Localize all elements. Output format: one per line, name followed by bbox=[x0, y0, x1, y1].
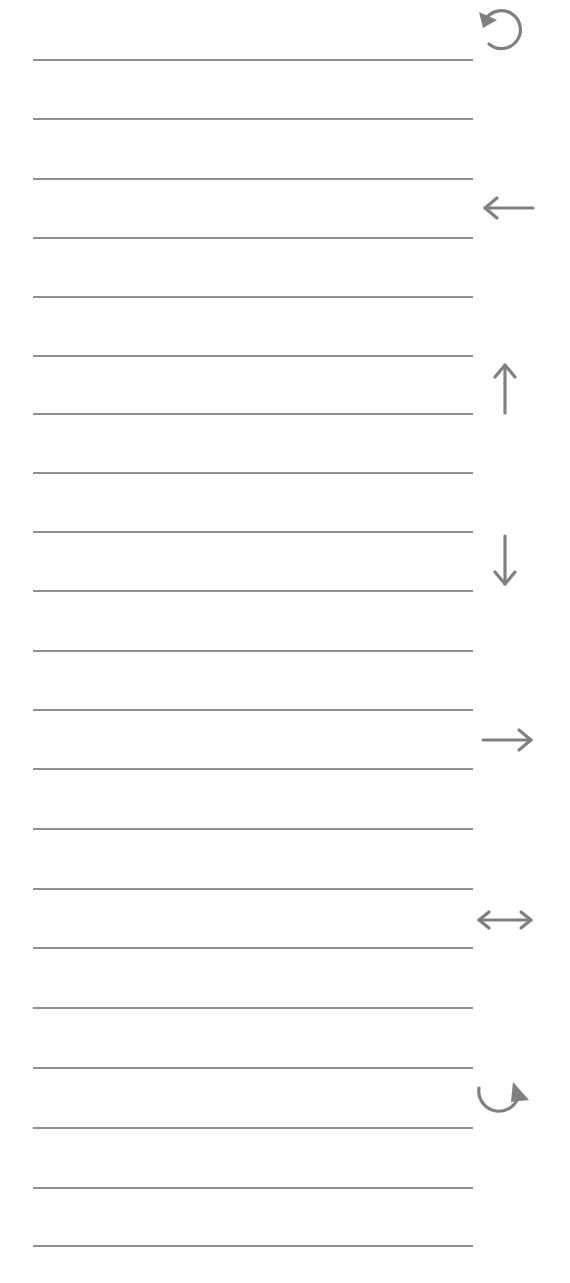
ruled-line bbox=[33, 650, 473, 652]
rotate-clockwise-icon[interactable] bbox=[471, 1072, 535, 1128]
ruled-line bbox=[33, 355, 473, 357]
ruled-line bbox=[33, 1067, 473, 1069]
ruled-line bbox=[33, 1127, 473, 1129]
arrow-right-icon[interactable] bbox=[475, 712, 539, 768]
ruled-line bbox=[33, 59, 473, 61]
ruled-line bbox=[33, 1245, 473, 1247]
ruled-line bbox=[33, 709, 473, 711]
rotate-counterclockwise-icon[interactable] bbox=[471, 0, 535, 56]
arrow-up-icon[interactable] bbox=[473, 361, 537, 417]
ruled-line bbox=[33, 413, 473, 415]
ruled-line bbox=[33, 768, 473, 770]
ruled-line bbox=[33, 472, 473, 474]
ruled-line bbox=[33, 237, 473, 239]
arrow-left-right-icon[interactable] bbox=[473, 892, 537, 948]
arrow-left-icon[interactable] bbox=[475, 180, 539, 236]
ruled-line bbox=[33, 888, 473, 890]
ruled-line bbox=[33, 118, 473, 120]
ruled-line bbox=[33, 1187, 473, 1189]
ruled-line bbox=[33, 531, 473, 533]
ruled-line bbox=[33, 296, 473, 298]
arrow-down-icon[interactable] bbox=[473, 532, 537, 588]
ruled-line bbox=[33, 1007, 473, 1009]
ruled-line bbox=[33, 947, 473, 949]
ruled-line bbox=[33, 828, 473, 830]
ruled-line bbox=[33, 590, 473, 592]
ruled-line bbox=[33, 178, 473, 180]
